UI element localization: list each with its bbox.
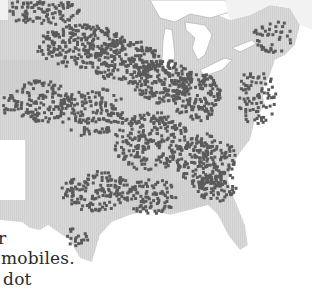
data-dot: [22, 19, 25, 22]
data-dot: [202, 167, 205, 170]
data-dot: [91, 66, 94, 69]
data-dot: [98, 47, 101, 50]
data-dot: [36, 114, 39, 117]
data-dot: [98, 59, 101, 62]
data-dot: [177, 80, 180, 83]
data-dot: [226, 144, 229, 147]
data-dot: [46, 90, 49, 93]
data-dot: [87, 174, 90, 177]
data-dot: [92, 48, 95, 51]
data-dot: [123, 184, 126, 187]
data-dot: [184, 177, 187, 180]
data-dot: [134, 54, 137, 57]
data-dot: [182, 90, 185, 93]
data-dot: [94, 54, 97, 57]
data-dot: [117, 155, 120, 158]
data-dot: [162, 121, 165, 124]
data-dot: [189, 76, 192, 79]
data-dot: [141, 185, 144, 188]
data-dot: [84, 98, 87, 101]
data-dot: [74, 244, 77, 247]
data-dot: [77, 29, 80, 32]
data-dot: [118, 186, 121, 189]
data-dot: [170, 185, 173, 188]
data-dot: [88, 96, 91, 99]
data-dot: [32, 20, 35, 23]
data-dot: [243, 73, 246, 76]
data-dot: [136, 191, 139, 194]
data-dot: [157, 158, 160, 161]
data-dot: [98, 91, 101, 94]
data-dot: [220, 149, 223, 152]
data-dot: [140, 41, 143, 44]
data-dot: [142, 65, 145, 68]
data-dot: [206, 151, 209, 154]
data-dot: [71, 93, 74, 96]
data-dot: [168, 60, 171, 63]
data-dot: [192, 148, 195, 151]
data-dot: [20, 101, 23, 104]
data-dot: [79, 66, 82, 69]
data-dot: [89, 53, 92, 56]
data-dot: [163, 83, 166, 86]
data-dot: [54, 11, 57, 14]
data-dot: [116, 68, 119, 71]
data-dot: [77, 242, 80, 245]
data-dot: [96, 170, 99, 173]
data-dot: [21, 88, 24, 91]
data-dot: [18, 18, 21, 21]
data-dot: [166, 191, 169, 194]
data-dot: [86, 122, 89, 125]
data-dot: [147, 73, 150, 76]
data-dot: [223, 155, 226, 158]
data-dot: [101, 206, 104, 209]
data-dot: [171, 89, 174, 92]
data-dot: [77, 111, 80, 114]
data-dot: [180, 132, 183, 135]
data-dot: [156, 181, 159, 184]
data-dot: [60, 110, 63, 113]
data-dot: [61, 49, 64, 52]
data-dot: [105, 47, 108, 50]
data-dot: [248, 100, 251, 103]
data-dot: [202, 153, 205, 156]
data-dot: [107, 56, 110, 59]
data-dot: [63, 98, 66, 101]
data-dot: [105, 64, 108, 67]
data-dot: [243, 98, 246, 101]
data-dot: [33, 10, 36, 13]
data-dot: [200, 144, 203, 147]
data-dot: [28, 81, 31, 84]
data-dot: [213, 95, 216, 98]
data-dot: [32, 87, 35, 90]
data-dot: [223, 172, 226, 175]
data-dot: [251, 102, 254, 105]
data-dot: [249, 72, 252, 75]
data-dot: [155, 91, 158, 94]
data-dot: [47, 31, 50, 34]
data-dot: [70, 16, 73, 19]
data-dot: [132, 194, 135, 197]
data-dot: [113, 76, 116, 79]
data-dot: [85, 62, 88, 65]
data-dot: [206, 157, 209, 160]
data-dot: [157, 102, 160, 105]
data-dot: [121, 111, 124, 114]
data-dot: [164, 90, 167, 93]
data-dot: [42, 35, 45, 38]
data-dot: [65, 51, 68, 54]
data-dot: [89, 100, 92, 103]
data-dot: [147, 85, 150, 88]
data-dot: [42, 97, 45, 100]
data-dot: [246, 84, 249, 87]
data-dot: [59, 11, 62, 14]
data-dot: [189, 87, 192, 90]
data-dot: [106, 29, 109, 32]
data-dot: [187, 166, 190, 169]
data-dot: [195, 73, 198, 76]
data-dot: [183, 135, 186, 138]
data-dot: [61, 187, 64, 190]
data-dot: [231, 188, 234, 191]
data-dot: [109, 179, 112, 182]
data-dot: [204, 141, 207, 144]
